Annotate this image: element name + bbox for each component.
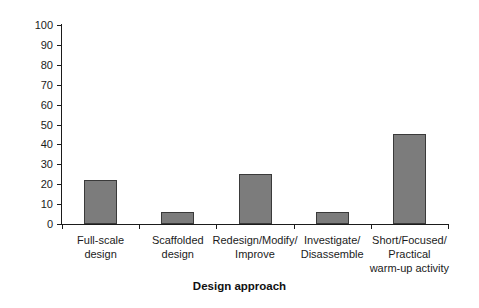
y-axis-tick-label: 0 [47, 219, 53, 230]
x-axis-tick-mark [448, 224, 449, 229]
x-axis-tick-mark [371, 224, 372, 229]
y-axis-tick-label: 30 [41, 159, 53, 170]
y-axis-tick-label: 20 [41, 179, 53, 190]
bar-chart-figure: 0102030405060708090100 Full-scaledesignS… [0, 0, 479, 308]
y-axis-tick-label: 60 [41, 99, 53, 110]
x-axis-tick-mark [139, 224, 140, 229]
y-axis-tick-label: 10 [41, 199, 53, 210]
x-axis-title: Design approach [0, 280, 479, 292]
x-axis-tick-mark [216, 224, 217, 229]
y-axis-tick-label: 90 [41, 39, 53, 50]
y-axis-tick-label: 80 [41, 59, 53, 70]
y-axis-tick-label: 70 [41, 79, 53, 90]
y-axis-tick-mark [57, 144, 62, 145]
y-axis-tick-mark [57, 105, 62, 106]
y-axis-tick-mark [57, 164, 62, 165]
y-axis-tick-mark [57, 85, 62, 86]
y-axis-tick-mark [57, 204, 62, 205]
bar [393, 134, 426, 224]
category-label-line: Practical [364, 247, 455, 261]
bar [239, 174, 272, 224]
y-axis-tick-label: 50 [41, 119, 53, 130]
y-axis-tick-mark [57, 184, 62, 185]
bar [316, 212, 349, 224]
plot-area: 0102030405060708090100 [62, 25, 448, 224]
y-axis-tick-mark [57, 65, 62, 66]
category-label-line: Short/Focused/ [364, 233, 455, 247]
y-axis-tick-label: 40 [41, 139, 53, 150]
x-axis-line [61, 224, 449, 225]
x-axis-tick-mark [294, 224, 295, 229]
y-axis-tick-label: 100 [35, 20, 53, 31]
x-axis-category-label: Short/Focused/Practicalwarm-up activity [364, 233, 455, 275]
bar [84, 180, 117, 224]
category-label-line: warm-up activity [364, 261, 455, 275]
y-axis-tick-mark [57, 125, 62, 126]
x-axis-tick-mark [62, 224, 63, 229]
y-axis-tick-mark [57, 45, 62, 46]
bar [161, 212, 194, 224]
y-axis-tick-mark [57, 25, 62, 26]
